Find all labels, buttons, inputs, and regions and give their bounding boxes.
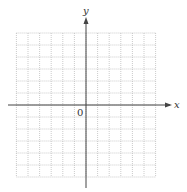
y-axis: [84, 17, 89, 188]
coordinate-plane: x y 0: [0, 0, 187, 192]
x-axis-arrow-icon: [165, 103, 172, 108]
origin-label: 0: [77, 107, 83, 118]
y-axis-arrow-icon: [84, 17, 89, 24]
x-axis: [8, 103, 172, 108]
y-axis-label: y: [82, 5, 89, 16]
x-axis-label: x: [174, 99, 180, 110]
